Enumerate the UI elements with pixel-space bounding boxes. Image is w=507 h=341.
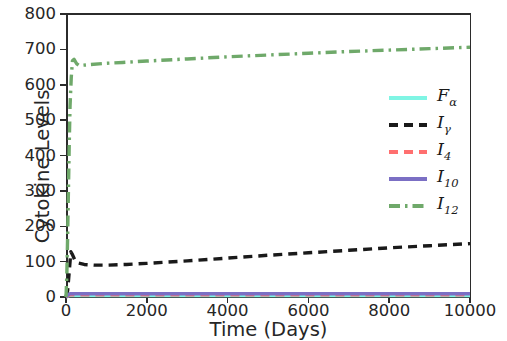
x-axis-label: Time (Days) bbox=[66, 318, 471, 341]
legend-swatch-i-10 bbox=[388, 172, 428, 186]
legend-item-i-10[interactable]: I10 bbox=[388, 165, 470, 192]
legend-item-i-4[interactable]: I4 bbox=[388, 138, 470, 165]
legend-swatch-i-12 bbox=[388, 199, 428, 213]
chart-legend: FαIγI4I10I12 bbox=[388, 84, 470, 219]
legend-label-i-y: Iγ bbox=[437, 114, 451, 135]
legend-item-i-12[interactable]: I12 bbox=[388, 192, 470, 219]
legend-label-i-10: I10 bbox=[437, 168, 459, 189]
legend-item-i-y[interactable]: Iγ bbox=[388, 111, 470, 138]
legend-label-i-12: I12 bbox=[437, 195, 459, 216]
legend-swatch-i-4 bbox=[388, 145, 428, 159]
y-axis-label: Cytokine Levels bbox=[31, 47, 54, 287]
legend-label-i-4: I4 bbox=[437, 141, 451, 162]
legend-item-f-a[interactable]: Fα bbox=[388, 84, 470, 111]
legend-swatch-i-y bbox=[388, 118, 428, 132]
legend-label-f-a: Fα bbox=[437, 87, 457, 108]
legend-swatch-f-a bbox=[388, 91, 428, 105]
series-line-i-y bbox=[66, 244, 470, 297]
